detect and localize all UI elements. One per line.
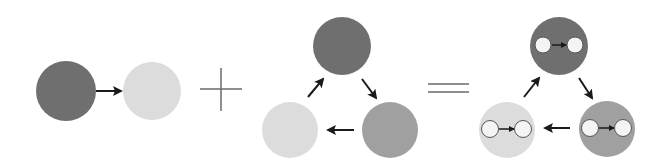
arrow-up-right-icon [308, 79, 323, 97]
cycle-group [262, 17, 418, 158]
inner-node [567, 37, 583, 53]
plus-operator [200, 68, 242, 111]
node-dark [36, 61, 96, 121]
result-node-bottom-right [579, 101, 635, 157]
inner-node [582, 120, 599, 137]
result-group [479, 17, 635, 158]
arrow-down-right-icon [579, 78, 592, 98]
node-light [262, 102, 318, 158]
node-dark [313, 17, 371, 75]
inner-node [615, 120, 632, 137]
node-light [123, 62, 181, 120]
inner-node [482, 121, 499, 138]
edge-group [36, 61, 181, 121]
arrow-down-right-icon [362, 79, 376, 98]
node-medium [362, 102, 418, 158]
equals-operator [428, 84, 469, 92]
inner-node [515, 121, 532, 138]
result-node-top [530, 17, 588, 75]
diagram-canvas [0, 0, 665, 168]
result-node-bottom-left [479, 102, 535, 158]
arrow-up-right-icon [524, 78, 539, 97]
inner-node [535, 37, 551, 53]
